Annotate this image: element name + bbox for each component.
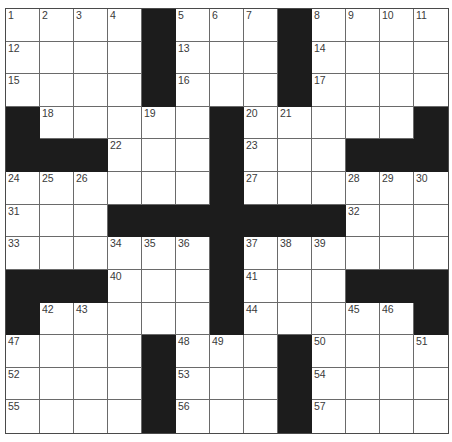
crossword-cell[interactable]: 9: [346, 9, 380, 42]
crossword-cell[interactable]: [312, 270, 346, 303]
crossword-cell[interactable]: 49: [210, 335, 244, 368]
crossword-cell[interactable]: [414, 74, 448, 107]
crossword-cell[interactable]: [244, 368, 278, 401]
crossword-cell[interactable]: 52: [6, 368, 40, 401]
crossword-cell[interactable]: [40, 335, 74, 368]
crossword-cell[interactable]: 15: [6, 74, 40, 107]
crossword-cell[interactable]: 29: [380, 172, 414, 205]
crossword-cell[interactable]: [244, 335, 278, 368]
crossword-cell[interactable]: [74, 42, 108, 75]
crossword-cell[interactable]: 24: [6, 172, 40, 205]
crossword-cell[interactable]: [278, 270, 312, 303]
crossword-cell[interactable]: 56: [176, 400, 210, 433]
crossword-cell[interactable]: [380, 107, 414, 140]
crossword-cell[interactable]: [346, 107, 380, 140]
crossword-cell[interactable]: 43: [74, 303, 108, 336]
crossword-cell[interactable]: [74, 74, 108, 107]
crossword-cell[interactable]: 36: [176, 237, 210, 270]
crossword-cell[interactable]: [210, 400, 244, 433]
crossword-cell[interactable]: [414, 400, 448, 433]
crossword-cell[interactable]: 11: [414, 9, 448, 42]
crossword-cell[interactable]: [346, 400, 380, 433]
crossword-cell[interactable]: 30: [414, 172, 448, 205]
crossword-cell[interactable]: [312, 172, 346, 205]
crossword-cell[interactable]: [108, 335, 142, 368]
crossword-cell[interactable]: 37: [244, 237, 278, 270]
crossword-cell[interactable]: [380, 335, 414, 368]
crossword-cell[interactable]: 55: [6, 400, 40, 433]
crossword-cell[interactable]: 38: [278, 237, 312, 270]
crossword-cell[interactable]: 8: [312, 9, 346, 42]
crossword-cell[interactable]: 13: [176, 42, 210, 75]
crossword-cell[interactable]: [108, 172, 142, 205]
crossword-cell[interactable]: [278, 303, 312, 336]
crossword-cell[interactable]: 14: [312, 42, 346, 75]
crossword-cell[interactable]: [244, 400, 278, 433]
crossword-cell[interactable]: 22: [108, 139, 142, 172]
crossword-cell[interactable]: 28: [346, 172, 380, 205]
crossword-cell[interactable]: [40, 368, 74, 401]
crossword-cell[interactable]: 42: [40, 303, 74, 336]
crossword-cell[interactable]: 57: [312, 400, 346, 433]
crossword-cell[interactable]: [346, 368, 380, 401]
crossword-cell[interactable]: [74, 400, 108, 433]
crossword-cell[interactable]: 39: [312, 237, 346, 270]
crossword-cell[interactable]: 20: [244, 107, 278, 140]
crossword-cell[interactable]: 34: [108, 237, 142, 270]
crossword-cell[interactable]: [414, 368, 448, 401]
crossword-cell[interactable]: [108, 107, 142, 140]
crossword-cell[interactable]: [74, 107, 108, 140]
crossword-cell[interactable]: 25: [40, 172, 74, 205]
crossword-cell[interactable]: [210, 74, 244, 107]
crossword-cell[interactable]: [74, 335, 108, 368]
crossword-cell[interactable]: 50: [312, 335, 346, 368]
crossword-cell[interactable]: 6: [210, 9, 244, 42]
crossword-cell[interactable]: [176, 139, 210, 172]
crossword-cell[interactable]: 16: [176, 74, 210, 107]
crossword-cell[interactable]: [74, 205, 108, 238]
crossword-cell[interactable]: [380, 42, 414, 75]
crossword-cell[interactable]: 7: [244, 9, 278, 42]
crossword-cell[interactable]: [108, 74, 142, 107]
crossword-cell[interactable]: 26: [74, 172, 108, 205]
crossword-cell[interactable]: [74, 368, 108, 401]
crossword-cell[interactable]: [74, 237, 108, 270]
crossword-cell[interactable]: 5: [176, 9, 210, 42]
crossword-cell[interactable]: [312, 139, 346, 172]
crossword-cell[interactable]: [380, 74, 414, 107]
crossword-cell[interactable]: [142, 172, 176, 205]
crossword-cell[interactable]: 47: [6, 335, 40, 368]
crossword-cell[interactable]: [414, 237, 448, 270]
crossword-cell[interactable]: [142, 139, 176, 172]
crossword-cell[interactable]: 21: [278, 107, 312, 140]
crossword-cell[interactable]: [40, 400, 74, 433]
crossword-cell[interactable]: 46: [380, 303, 414, 336]
crossword-cell[interactable]: 33: [6, 237, 40, 270]
crossword-cell[interactable]: 10: [380, 9, 414, 42]
crossword-cell[interactable]: [312, 107, 346, 140]
crossword-cell[interactable]: [40, 42, 74, 75]
crossword-cell[interactable]: 51: [414, 335, 448, 368]
crossword-cell[interactable]: [346, 335, 380, 368]
crossword-cell[interactable]: [176, 172, 210, 205]
crossword-cell[interactable]: [312, 303, 346, 336]
crossword-cell[interactable]: [380, 237, 414, 270]
crossword-cell[interactable]: [210, 368, 244, 401]
crossword-cell[interactable]: 40: [108, 270, 142, 303]
crossword-cell[interactable]: [176, 270, 210, 303]
crossword-cell[interactable]: [346, 237, 380, 270]
crossword-cell[interactable]: [40, 74, 74, 107]
crossword-cell[interactable]: 44: [244, 303, 278, 336]
crossword-cell[interactable]: 35: [142, 237, 176, 270]
crossword-cell[interactable]: 32: [346, 205, 380, 238]
crossword-cell[interactable]: 18: [40, 107, 74, 140]
crossword-cell[interactable]: 3: [74, 9, 108, 42]
crossword-cell[interactable]: 12: [6, 42, 40, 75]
crossword-cell[interactable]: [108, 303, 142, 336]
crossword-cell[interactable]: [176, 303, 210, 336]
crossword-cell[interactable]: 27: [244, 172, 278, 205]
crossword-cell[interactable]: 54: [312, 368, 346, 401]
crossword-cell[interactable]: 17: [312, 74, 346, 107]
crossword-cell[interactable]: [176, 107, 210, 140]
crossword-cell[interactable]: 31: [6, 205, 40, 238]
